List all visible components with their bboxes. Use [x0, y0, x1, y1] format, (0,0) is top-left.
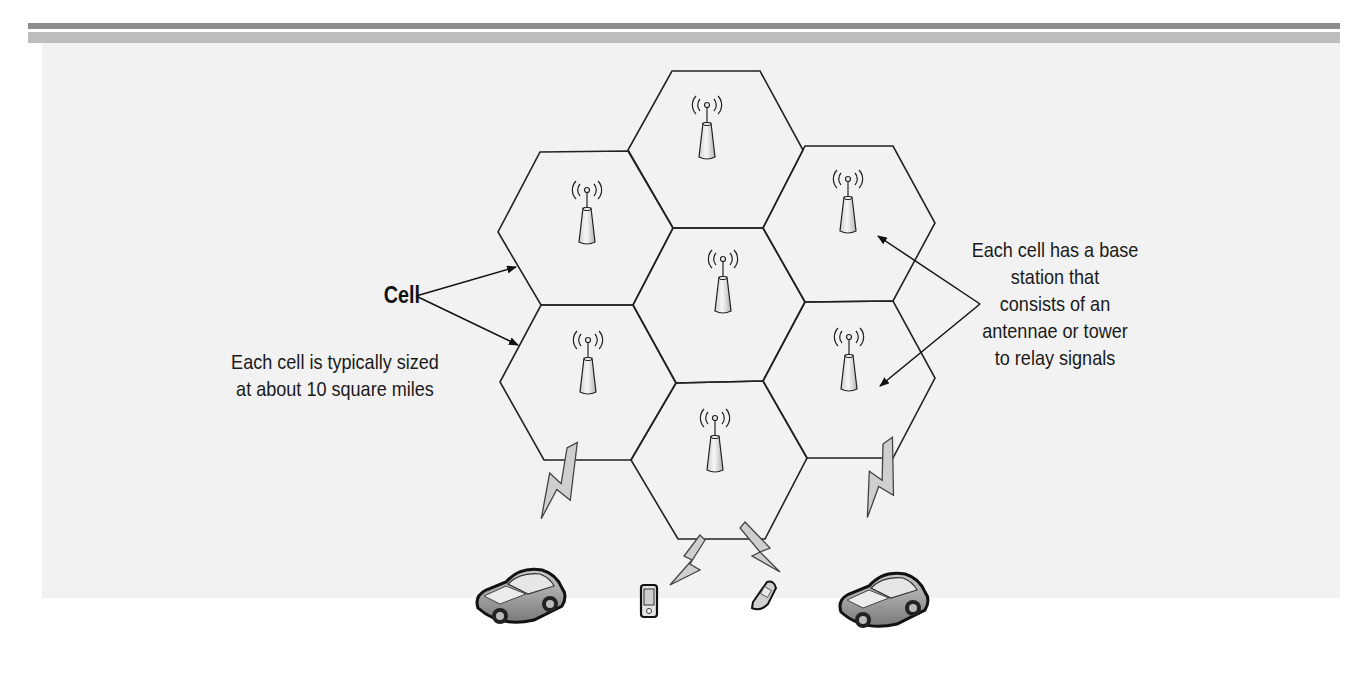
antenna-icon [692, 96, 721, 159]
cell-size-line-2: at about 10 square miles [197, 375, 472, 402]
antenna-icon [708, 250, 737, 313]
cell-label: Cell [343, 282, 420, 309]
base-station-line-5: to relay signals [952, 344, 1158, 371]
pda-icon [641, 585, 657, 617]
antenna-icon [700, 409, 729, 472]
cell-size-annotation: Each cell is typically sized at about 10… [197, 348, 472, 402]
antenna-icon [572, 181, 601, 244]
base-station-annotation: Each cell has a base station that consis… [952, 236, 1158, 371]
antenna-icon [834, 328, 863, 391]
base-station-line-1: Each cell has a base [952, 236, 1158, 263]
car-icon [477, 569, 565, 624]
signal-bolt-icon [861, 437, 900, 517]
signal-bolt-icon [740, 522, 780, 572]
antenna-icon [573, 331, 602, 394]
antenna-icon [833, 170, 862, 233]
base-station-line-3: consists of an [952, 290, 1158, 317]
base-station-line-2: station that [952, 263, 1158, 290]
signal-bolt-icon [670, 535, 705, 585]
cellular-network-diagram [0, 0, 1368, 680]
flip-phone-icon [752, 582, 776, 610]
car-icon [840, 573, 928, 628]
cell-arrows [416, 236, 980, 386]
cell-size-line-1: Each cell is typically sized [197, 348, 472, 375]
base-station-line-4: antennae or tower [952, 317, 1158, 344]
cell-top [628, 71, 803, 228]
signal-bolt-icon [541, 441, 577, 521]
